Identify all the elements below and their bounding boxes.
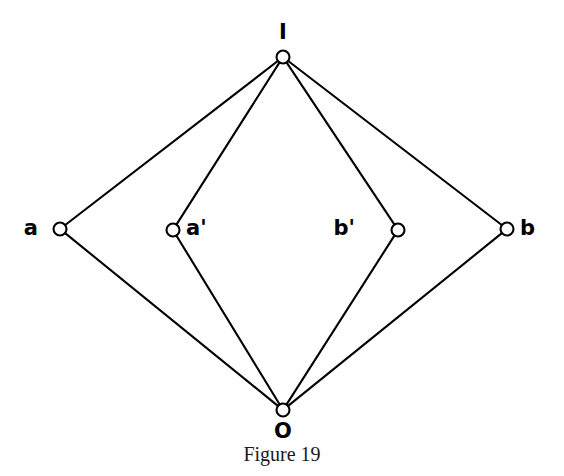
edge-I-b [289,61,502,224]
edge-ap-O [177,236,280,404]
node-circle-a [54,223,67,236]
edge-I-ap [177,63,279,224]
node-circle-O [277,404,290,417]
edge-bp-O [287,236,394,404]
node-circle-bp [392,224,405,237]
node-label-ap: a' [186,218,207,239]
node-label-b: b [520,218,535,239]
node-label-I: I [1,22,564,43]
node-label-O: O [1,421,564,442]
lattice-diagram [0,0,564,476]
edge-b-O [288,233,501,405]
edge-I-a [66,61,278,224]
edge-I-bp [287,63,394,224]
figure-caption: Figure 19 [0,443,564,465]
edge-a-O [65,233,277,405]
node-circle-I [277,51,290,64]
node-circle-ap [167,224,180,237]
node-label-a: a [24,218,38,239]
nodes-group [54,51,514,417]
node-label-bp: b' [334,218,355,239]
edges-group [65,61,501,405]
node-circle-b [501,223,514,236]
figure-19-container: Iaa'b'bO Figure 19 [0,0,564,476]
